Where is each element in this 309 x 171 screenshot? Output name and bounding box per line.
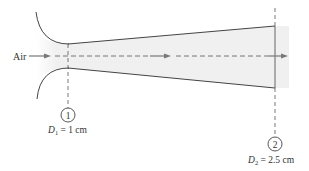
section-2-diameter-label: D2 = 2.5 cm	[247, 155, 295, 166]
d1-var: D	[47, 125, 55, 135]
section-2-marker-number: 2	[273, 140, 278, 150]
section-1-diameter-label: D1 = 1 cm	[47, 125, 88, 136]
air-label: Air	[13, 51, 27, 62]
d2-var: D	[247, 155, 255, 165]
diffuser-diagram: Air 1 2 D1 = 1 cm D2 = 2.5 cm	[0, 0, 309, 171]
d2-value: = 2.5 cm	[258, 155, 295, 165]
d1-value: = 1 cm	[58, 125, 87, 135]
section-1-marker-number: 1	[66, 111, 71, 121]
